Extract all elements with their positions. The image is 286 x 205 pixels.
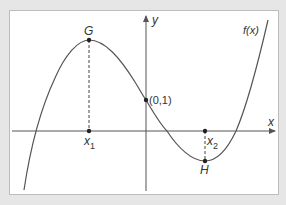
label-x2: x2 <box>206 134 218 151</box>
label-H: H <box>200 163 209 177</box>
function-label: f(x) <box>243 24 259 36</box>
point-x2 <box>203 129 207 133</box>
label-G: G <box>84 24 93 38</box>
function-graph: y x f(x) G H (0,1) x1 x2 <box>0 0 286 205</box>
point-intercept <box>144 98 148 102</box>
label-intercept: (0,1) <box>149 94 172 106</box>
y-axis-label: y <box>151 13 159 27</box>
label-x1: x1 <box>83 134 95 151</box>
point-G <box>87 38 91 42</box>
point-x1 <box>87 129 91 133</box>
x-axis-label: x <box>267 115 275 129</box>
